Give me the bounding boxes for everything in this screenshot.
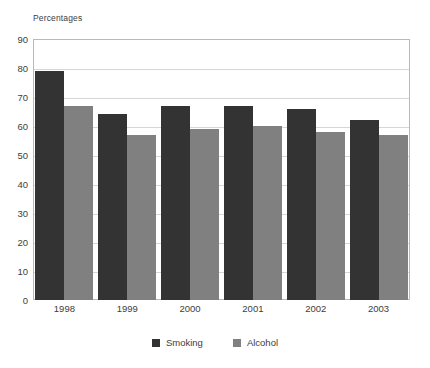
x-tick-label-2002: 2002 xyxy=(287,303,345,314)
bar-alcohol-2000 xyxy=(190,129,219,300)
chart-legend: SmokingAlcohol xyxy=(0,337,430,348)
bar-smoking-2003 xyxy=(350,120,379,300)
legend-label: Alcohol xyxy=(247,337,278,348)
legend-item-alcohol: Alcohol xyxy=(233,337,278,348)
x-tick-label-2003: 2003 xyxy=(350,303,408,314)
x-axis-tick-labels: 199819992000200120022003 xyxy=(33,303,410,319)
y-tick-label: 60 xyxy=(2,121,28,132)
bar-smoking-2001 xyxy=(224,106,253,300)
bar-smoking-1998 xyxy=(35,71,64,300)
y-tick-label: 50 xyxy=(2,150,28,161)
bar-group-2003 xyxy=(350,39,408,300)
legend-swatch-icon xyxy=(233,339,241,347)
legend-swatch-icon xyxy=(152,339,160,347)
y-tick-label: 80 xyxy=(2,63,28,74)
y-tick-label: 30 xyxy=(2,208,28,219)
bar-group-1999 xyxy=(98,39,156,300)
legend-label: Smoking xyxy=(166,337,203,348)
y-tick-label: 20 xyxy=(2,237,28,248)
bar-alcohol-1999 xyxy=(127,135,156,300)
bar-alcohol-2002 xyxy=(316,132,345,300)
x-tick-label-2000: 2000 xyxy=(161,303,219,314)
x-tick-label-1998: 1998 xyxy=(35,303,93,314)
bar-smoking-2000 xyxy=(161,106,190,300)
y-tick-label: 90 xyxy=(2,34,28,45)
y-tick-label: 0 xyxy=(2,295,28,306)
bar-chart-figure: Percentages 0102030405060708090 19981999… xyxy=(0,0,430,368)
bar-group-2002 xyxy=(287,39,345,300)
x-tick-label-2001: 2001 xyxy=(224,303,282,314)
bar-alcohol-2001 xyxy=(253,126,282,300)
bar-smoking-2002 xyxy=(287,109,316,300)
y-tick-label: 70 xyxy=(2,92,28,103)
bar-alcohol-1998 xyxy=(64,106,93,300)
bar-group-2001 xyxy=(224,39,282,300)
bar-group-1998 xyxy=(35,39,93,300)
bar-alcohol-2003 xyxy=(379,135,408,300)
y-axis-unit-caption: Percentages xyxy=(33,13,82,23)
bars-layer xyxy=(33,39,410,300)
x-tick-label-1999: 1999 xyxy=(98,303,156,314)
y-tick-label: 10 xyxy=(2,266,28,277)
bar-group-2000 xyxy=(161,39,219,300)
bar-smoking-1999 xyxy=(98,114,127,300)
legend-item-smoking: Smoking xyxy=(152,337,203,348)
y-tick-label: 40 xyxy=(2,179,28,190)
